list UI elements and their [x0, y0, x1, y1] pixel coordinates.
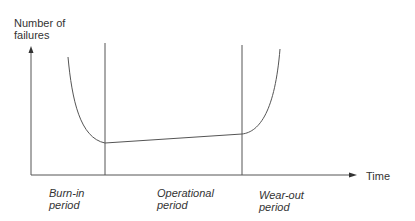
period-label-line2: period — [157, 199, 214, 211]
operational-period-label: Operational period — [157, 187, 214, 211]
period-label-line1: Wear-out — [259, 189, 304, 201]
period-label-line2: period — [259, 201, 304, 213]
x-axis-arrow-icon — [349, 173, 357, 178]
x-axis-label: Time — [366, 170, 390, 182]
period-label-line1: Operational — [157, 187, 214, 199]
failure-rate-curve — [68, 49, 280, 143]
period-label-line1: Burn-in — [49, 187, 84, 199]
burn-in-period-label: Burn-in period — [49, 187, 84, 211]
y-axis-label-line2: failures — [14, 29, 65, 41]
y-axis-label: Number of failures — [14, 17, 65, 41]
y-axis-arrow-icon — [29, 46, 34, 53]
period-label-line2: period — [49, 199, 84, 211]
wear-out-period-label: Wear-out period — [259, 189, 304, 213]
y-axis-label-line1: Number of — [14, 17, 65, 29]
